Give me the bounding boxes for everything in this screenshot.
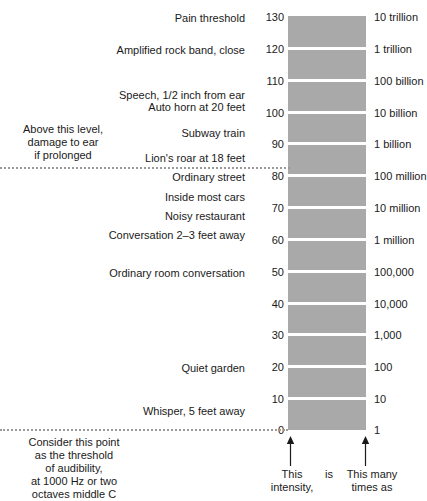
audibility-note-line-2: as the threshold (8, 449, 140, 462)
db-tick-30: 30 (250, 330, 284, 341)
source-label-noisy-restaurant: Noisy restaurant (165, 210, 245, 222)
damage-note-line-3: if prolonged (4, 149, 122, 162)
db-tick-100: 100 (250, 108, 284, 119)
source-label-subway-train: Subway train (181, 127, 245, 139)
gridline-60 (288, 238, 366, 241)
source-label-inside-most-cars: Inside most cars (165, 191, 245, 203)
source-label-lions-roar: Lion's roar at 18 feet (145, 152, 245, 164)
caption-this-intensity-line-1: This (264, 468, 320, 481)
gridline-90 (288, 142, 366, 145)
up-arrow-times-as-intense (360, 436, 371, 466)
gridline-80 (288, 174, 366, 177)
multiplier-label-120: 1 trillion (374, 44, 412, 55)
intensity-bar-column (288, 16, 366, 430)
gridline-100 (288, 111, 366, 114)
source-label-ordinary-street: Ordinary street (172, 171, 245, 183)
db-tick-120: 120 (250, 44, 284, 55)
gridline-50 (288, 270, 366, 273)
damage-threshold-note: Above this level, damage to ear if prolo… (4, 123, 122, 162)
gridline-40 (288, 302, 366, 305)
multiplier-label-130: 10 trillion (374, 12, 418, 23)
db-tick-80: 80 (250, 171, 284, 182)
source-label-quiet-garden: Quiet garden (181, 362, 245, 374)
caption-this-many-line-2: times as (337, 481, 407, 494)
source-label-speech-half-inch: Speech, 1/2 inch from ear (119, 89, 245, 101)
db-tick-70: 70 (250, 203, 284, 214)
gridline-20 (288, 365, 366, 368)
multiplier-label-30: 1,000 (374, 330, 402, 341)
source-label-ordinary-room-conversation: Ordinary room conversation (109, 267, 245, 279)
db-tick-50: 50 (250, 267, 284, 278)
multiplier-label-70: 10 million (374, 203, 420, 214)
multiplier-label-10: 10 (374, 394, 386, 405)
db-tick-110: 110 (250, 76, 284, 87)
db-tick-60: 60 (250, 235, 284, 246)
multiplier-label-60: 1 million (374, 235, 414, 246)
db-tick-90: 90 (250, 139, 284, 150)
caption-this-intensity-line-2: intensity, (264, 481, 320, 494)
source-label-pain-threshold: Pain threshold (175, 12, 245, 24)
audibility-threshold-dotted-rule (0, 429, 288, 431)
caption-this-many-line-1: This many (337, 468, 407, 481)
audibility-note-line-3: of audibility, (8, 462, 140, 475)
multiplier-label-100: 10 billion (374, 108, 417, 119)
audibility-note-line-4: at 1000 Hz or two (8, 475, 140, 488)
db-tick-130: 130 (250, 12, 284, 23)
multiplier-label-40: 10,000 (374, 299, 408, 310)
multiplier-label-20: 100 (374, 362, 392, 373)
source-label-auto-horn: Auto horn at 20 feet (148, 101, 245, 113)
caption-this-many-times-as: This many times as (337, 468, 407, 494)
caption-this-intensity: This intensity, (264, 468, 320, 494)
multiplier-label-0: 1 (374, 425, 380, 436)
db-tick-20: 20 (250, 362, 284, 373)
multiplier-label-80: 100 million (374, 171, 427, 182)
gridline-110 (288, 79, 366, 82)
damage-note-line-1: Above this level, (4, 123, 122, 136)
source-label-amplified-rock-band: Amplified rock band, close (117, 44, 245, 56)
gridline-10 (288, 397, 366, 400)
damage-threshold-dotted-rule (0, 167, 290, 169)
gridline-120 (288, 47, 366, 50)
multiplier-label-90: 1 billion (374, 139, 411, 150)
multiplier-label-50: 100,000 (374, 267, 414, 278)
audibility-note-line-1: Consider this point (8, 436, 140, 449)
source-label-whisper-5-feet: Whisper, 5 feet away (143, 405, 245, 417)
db-tick-40: 40 (250, 299, 284, 310)
gridline-70 (288, 206, 366, 209)
audibility-note-line-5: octaves middle C (8, 488, 140, 501)
damage-note-line-2: damage to ear (4, 136, 122, 149)
db-tick-10: 10 (250, 394, 284, 405)
multiplier-label-110: 100 billion (374, 76, 424, 87)
gridline-30 (288, 333, 366, 336)
up-arrow-intensity (285, 436, 296, 466)
audibility-threshold-note: Consider this point as the threshold of … (8, 436, 140, 501)
source-label-conversation-2-3-feet: Conversation 2–3 feet away (109, 229, 245, 241)
